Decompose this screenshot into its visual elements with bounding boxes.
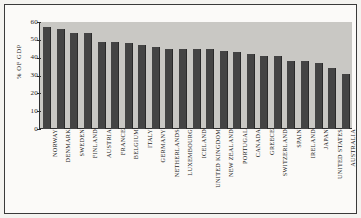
bar [179,49,187,129]
y-tick-label: 10 [20,108,38,115]
bar [125,43,133,129]
y-tick-label: 0 [20,126,38,133]
x-tick-label: FINLAND [90,129,99,213]
bar-series [40,22,352,129]
bar [247,54,255,129]
bar [206,49,214,129]
x-tick-label: SWEDEN [77,129,86,213]
chart-figure: 0102030405060 % OF GDP NORWAYDENMARKSWED… [0,0,361,218]
bar [70,33,78,129]
bar [193,49,201,129]
x-tick-label: CANADA [253,129,262,213]
bar [165,49,173,129]
bar [328,68,336,129]
x-tick-label: UNITED STATES [335,129,344,213]
bar [152,47,160,129]
x-tick-label: PORTUGAL [240,129,249,213]
x-axis-category-labels: NORWAYDENMARKSWEDENFINLANDAUSTRIAFRANCEB… [40,131,352,215]
x-tick-label: GREECE [267,129,276,213]
bar [233,52,241,129]
y-tick-mark [37,129,41,130]
bar [315,63,323,129]
bar [98,42,106,129]
y-tick-label: 30 [20,72,38,79]
y-tick-label: 50 [20,36,38,43]
bar [84,33,92,129]
x-tick-label: UNITED KINGDOM [213,129,222,213]
y-tick-label: 60 [20,19,38,26]
x-tick-label: NEW ZEALAND [226,129,235,213]
bar [43,27,51,129]
x-tick-label: LUXEMBOURG [185,129,194,213]
bar [220,51,228,129]
x-tick-label: BELGIUM [131,129,140,213]
bar [287,61,295,129]
bar [301,61,309,129]
bar [342,74,350,129]
bar [274,56,282,129]
x-tick-label: SPAIN [294,129,303,213]
x-tick-label: GERMANY [158,129,167,213]
x-tick-label: AUSTRALIA [348,129,357,213]
x-tick-label: SWITZERLAND [280,129,289,213]
bar [260,56,268,129]
bar [138,45,146,129]
x-tick-label: ITALY [145,129,154,213]
x-tick-label: ICELAND [199,129,208,213]
x-tick-label: NORWAY [50,129,59,213]
bar [111,42,119,129]
y-tick-label: 20 [20,90,38,97]
x-tick-label: AUSTRIA [104,129,113,213]
x-tick-label: NETHERLANDS [172,129,181,213]
y-axis-title: % OF GDP [15,32,22,92]
x-tick-label: JAPAN [321,129,330,213]
bar [57,29,65,129]
y-tick-label: 40 [20,54,38,61]
x-tick-label: IRELAND [308,129,317,213]
x-tick-label: FRANCE [118,129,127,213]
x-tick-label: DENMARK [63,129,72,213]
